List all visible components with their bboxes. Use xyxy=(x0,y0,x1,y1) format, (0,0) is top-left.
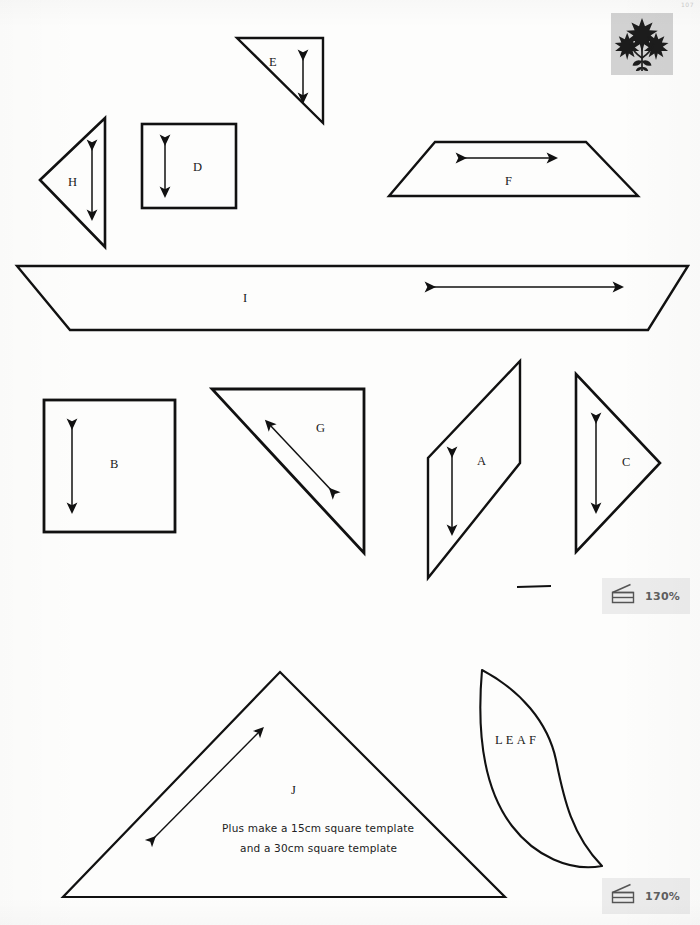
enlarge-130-badge: 130% xyxy=(602,578,690,614)
corner-code: 107 xyxy=(681,1,694,8)
template-label-C: C xyxy=(622,455,631,470)
flower-star-logo xyxy=(611,13,673,75)
template-label-B: B xyxy=(110,457,119,472)
template-shape-I xyxy=(17,266,688,330)
template-label-G: G xyxy=(316,421,326,436)
template-label-D: D xyxy=(193,160,203,175)
enlarge-170-badge: 170% xyxy=(602,878,690,914)
template-label-F: F xyxy=(505,174,512,189)
copier-icon xyxy=(610,583,636,609)
template-shape-D xyxy=(142,124,236,208)
template-shape-J xyxy=(63,672,505,897)
template-label-H: H xyxy=(68,175,78,190)
enlarge-130-percent: 130% xyxy=(645,590,680,603)
template-sheet-page: 107 xyxy=(0,0,700,925)
measurement-rule-mark xyxy=(517,586,551,587)
template-label-LEAF: LEAF xyxy=(495,733,539,748)
template-shape-G xyxy=(212,389,364,553)
template-label-E: E xyxy=(269,55,277,70)
template-label-A: A xyxy=(477,454,487,469)
template-shape-A xyxy=(428,361,520,578)
note-line-2: and a 30cm square template xyxy=(240,842,397,854)
enlarge-170-percent: 170% xyxy=(645,890,680,903)
template-label-I: I xyxy=(243,291,248,306)
template-shape-F xyxy=(389,142,638,196)
note-line-1: Plus make a 15cm square template xyxy=(222,822,414,834)
template-shape-LEAF xyxy=(480,670,602,867)
template-shape-E xyxy=(237,38,323,123)
template-label-J: J xyxy=(291,783,296,798)
template-shape-C xyxy=(576,374,660,552)
copier-icon xyxy=(610,883,636,909)
